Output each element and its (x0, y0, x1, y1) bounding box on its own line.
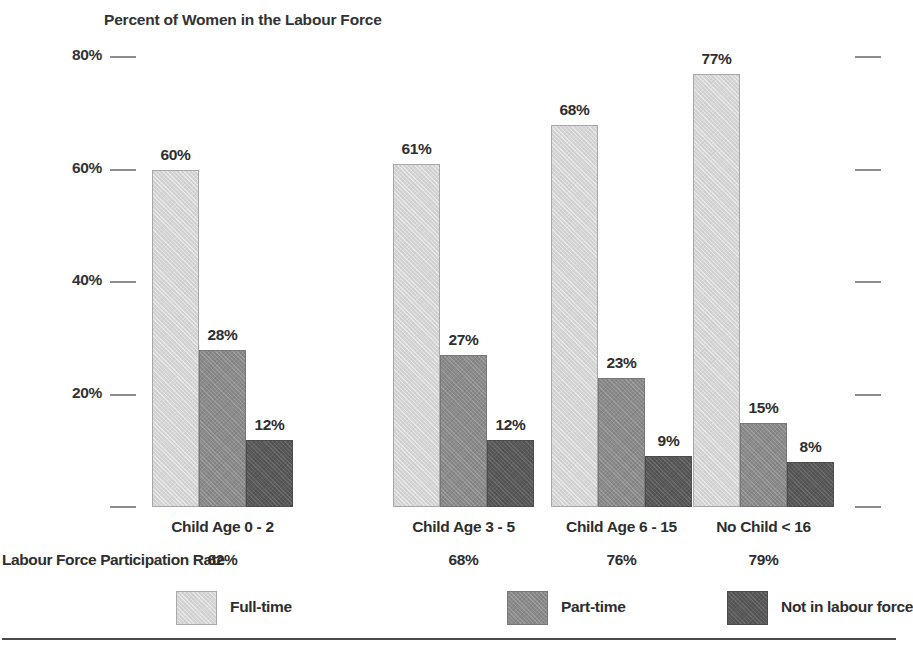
bar-value-label: 77% (681, 50, 752, 68)
bar-value-label: 60% (140, 146, 211, 164)
bar-1-notin (246, 440, 293, 508)
bar-value-label: 61% (381, 140, 452, 158)
y-axis-tick-mark (110, 169, 136, 171)
bar-3-notin (645, 456, 692, 507)
y-axis-tick-mark-right (855, 169, 881, 171)
legend-label-part: Part-time (561, 598, 626, 616)
participation-rate-value-4: 79% (653, 551, 874, 569)
y-axis-tick-mark-right (855, 281, 881, 283)
bar-value-label: 68% (539, 101, 610, 119)
y-axis-tick-mark (110, 56, 136, 58)
y-axis-tick-label: 80% (42, 46, 102, 64)
category-label-4: No Child < 16 (653, 518, 874, 536)
y-axis-tick-label: 20% (42, 384, 102, 402)
y-axis-tick-mark (110, 394, 136, 396)
bar-value-label: 15% (728, 399, 799, 417)
legend-swatch-notin (727, 591, 768, 625)
bar-3-full (551, 125, 598, 508)
y-axis-tick-label: 40% (42, 271, 102, 289)
bar-4-full (693, 74, 740, 507)
bar-value-label: 27% (428, 331, 499, 349)
y-axis-tick-mark-right (855, 506, 881, 508)
y-axis-tick-mark-right (855, 394, 881, 396)
legend-swatch-full (176, 591, 217, 625)
bar-4-part (740, 423, 787, 507)
bar-4-notin (787, 462, 834, 507)
participation-rate-label: Labour Force Participation Rate (2, 551, 225, 569)
y-axis-tick-mark-right (855, 56, 881, 58)
y-axis-tick-mark (110, 506, 136, 508)
footer-divider (2, 638, 896, 640)
y-axis-tick-label: 60% (42, 159, 102, 177)
category-label-1: Child Age 0 - 2 (112, 518, 333, 536)
legend-swatch-part (507, 591, 548, 625)
bar-value-label: 12% (234, 416, 305, 434)
bar-value-label: 28% (187, 326, 258, 344)
bar-value-label: 8% (775, 438, 846, 456)
bar-value-label: 23% (586, 354, 657, 372)
legend-label-notin: Not in labour force (781, 598, 913, 616)
bar-value-label: 12% (475, 416, 546, 434)
bar-2-notin (487, 440, 534, 508)
y-axis-tick-mark (110, 281, 136, 283)
legend-label-full: Full-time (230, 598, 292, 616)
